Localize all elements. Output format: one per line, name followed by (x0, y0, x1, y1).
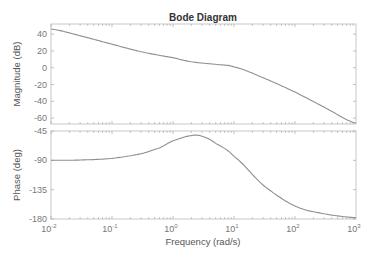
x-tick-label: 10-1 (102, 223, 118, 234)
y-tick-label: 40 (37, 29, 47, 39)
magnitude-axes: 40200-20-40-60 Magnitude (dB) (11, 24, 356, 124)
frequency-tick-labels: 10-210-1100101102103 (41, 223, 361, 234)
x-tick-label: 102 (286, 223, 300, 234)
y-tick-label: 0 (42, 63, 47, 73)
x-tick-label: 101 (225, 223, 239, 234)
frequency-axis-label: Frequency (rad/s) (166, 236, 241, 247)
y-tick-label: -40 (34, 96, 47, 106)
x-tick-label: 10-2 (41, 223, 57, 234)
chart-title: Bode Diagram (169, 12, 237, 23)
x-tick-label: 100 (164, 223, 178, 234)
x-tick-label: 103 (347, 223, 361, 234)
magnitude-frame (51, 24, 356, 124)
y-tick-label: -180 (29, 214, 47, 224)
y-tick-label: -20 (34, 80, 47, 90)
y-tick-label: 20 (37, 46, 47, 56)
phase-axes: -45-90-135-180 Phase (deg) (11, 126, 356, 224)
phase-frame (51, 131, 356, 219)
magnitude-axis-label: Magnitude (dB) (11, 42, 22, 107)
y-tick-label: -135 (29, 185, 47, 195)
y-tick-label: -45 (34, 126, 47, 136)
bode-figure: Bode Diagram 40200-20-40-60 Magnitude (d… (0, 0, 379, 262)
bode-plot-canvas: Bode Diagram 40200-20-40-60 Magnitude (d… (0, 0, 379, 262)
y-tick-label: -90 (34, 155, 47, 165)
y-tick-label: -60 (34, 113, 47, 123)
phase-axis-label: Phase (deg) (11, 149, 22, 201)
